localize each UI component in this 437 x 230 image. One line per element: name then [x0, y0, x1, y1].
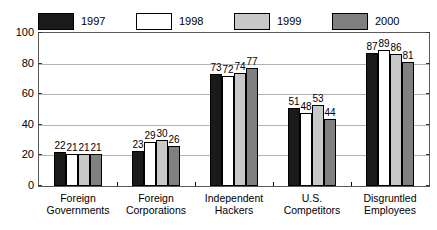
category-label-line: Governments	[39, 204, 117, 216]
category-label-line: Employees	[351, 204, 429, 216]
bar-value-label: 21	[78, 143, 89, 153]
legend-swatch-1999	[234, 13, 270, 30]
group-divider-1	[117, 182, 118, 186]
bar-value-label: 74	[234, 62, 245, 72]
bar-1999-3: 53	[312, 105, 324, 186]
bar-rect	[378, 50, 390, 186]
bar-1997-1: 23	[132, 151, 144, 186]
bar-rect	[246, 68, 258, 186]
bar-value-label: 26	[168, 135, 179, 145]
y-tick-left-20	[38, 154, 42, 155]
bar-rect	[90, 154, 102, 186]
bar-1999-1: 30	[156, 140, 168, 186]
category-label-line: Independent	[195, 192, 273, 204]
bar-1998-3: 48	[300, 113, 312, 186]
bar-value-label: 73	[210, 63, 221, 73]
y-axis-label-100: 100	[0, 27, 34, 38]
legend-swatch-2000	[332, 13, 368, 30]
group-divider-3	[273, 182, 274, 186]
bar-1997-0: 22	[54, 152, 66, 186]
bar-2000-3: 44	[324, 119, 336, 186]
category-label-line: Disgruntled	[351, 192, 429, 204]
category-label-4: DisgruntledEmployees	[351, 192, 429, 216]
bar-value-label: 44	[324, 108, 335, 118]
bar-1998-2: 72	[222, 76, 234, 186]
bar-value-label: 89	[378, 39, 389, 49]
bar-value-label: 77	[246, 57, 257, 67]
y-tick-right-80	[426, 63, 430, 64]
bar-rect	[144, 142, 156, 186]
bar-group-0: 22212121	[39, 33, 117, 186]
bar-rect	[78, 154, 90, 186]
y-tick-right-20	[426, 154, 430, 155]
y-tick-left-60	[38, 93, 42, 94]
bar-rect	[222, 76, 234, 186]
bar-rect	[210, 74, 222, 186]
bar-rect	[300, 113, 312, 186]
bar-2000-4: 81	[402, 62, 414, 186]
group-divider-4	[351, 182, 352, 186]
legend-item-1997: 1997	[38, 13, 136, 30]
bar-1998-0: 21	[66, 154, 78, 186]
bar-value-label: 21	[66, 143, 77, 153]
bar-chart: 1997199819992000 22212121232930267372747…	[0, 0, 437, 230]
category-label-0: ForeignGovernments	[39, 192, 117, 216]
bar-group-2: 73727477	[195, 33, 273, 186]
bar-2000-0: 21	[90, 154, 102, 186]
chart-legend: 1997199819992000	[38, 10, 430, 32]
y-axis-label-0: 0	[0, 180, 34, 191]
bar-rect	[132, 151, 144, 186]
y-tick-right-100	[426, 32, 430, 33]
bar-rect	[54, 152, 66, 186]
bar-2000-1: 26	[168, 146, 180, 186]
bar-rect	[234, 73, 246, 186]
category-label-1: ForeignCorporations	[117, 192, 195, 216]
bar-group-4: 87898681	[351, 33, 429, 186]
y-axis-label-40: 40	[0, 119, 34, 130]
category-label-line: Competitors	[273, 204, 351, 216]
bar-1997-2: 73	[210, 74, 222, 186]
bar-1998-1: 29	[144, 142, 156, 186]
bar-rect	[156, 140, 168, 186]
bar-value-label: 21	[90, 143, 101, 153]
bar-rect	[66, 154, 78, 186]
category-label-3: U.S.Competitors	[273, 192, 351, 216]
y-tick-left-0	[38, 185, 42, 186]
legend-item-2000: 2000	[332, 13, 430, 30]
bar-group-1: 23293026	[117, 33, 195, 186]
bar-1999-2: 74	[234, 73, 246, 186]
bar-value-label: 53	[312, 94, 323, 104]
y-tick-left-100	[38, 32, 42, 33]
bar-value-label: 72	[222, 65, 233, 75]
bar-value-label: 86	[390, 43, 401, 53]
bar-value-label: 81	[402, 51, 413, 61]
y-tick-left-80	[38, 63, 42, 64]
bar-rect	[312, 105, 324, 186]
bar-2000-2: 77	[246, 68, 258, 186]
bar-value-label: 29	[144, 131, 155, 141]
y-tick-left-40	[38, 124, 42, 125]
bar-value-label: 22	[54, 141, 65, 151]
bar-rect	[390, 54, 402, 186]
bar-value-label: 51	[288, 97, 299, 107]
bar-value-label: 30	[156, 129, 167, 139]
bar-rect	[324, 119, 336, 186]
bar-1999-4: 86	[390, 54, 402, 186]
bar-1998-4: 89	[378, 50, 390, 186]
category-label-line: Hackers	[195, 204, 273, 216]
category-label-line: Foreign	[117, 192, 195, 204]
legend-label-1997: 1997	[81, 16, 105, 27]
bar-1997-3: 51	[288, 108, 300, 186]
bar-value-label: 48	[300, 102, 311, 112]
legend-item-1998: 1998	[136, 13, 234, 30]
bar-rect	[366, 53, 378, 186]
legend-label-1998: 1998	[179, 16, 203, 27]
bar-value-label: 23	[132, 140, 143, 150]
group-divider-2	[195, 182, 196, 186]
y-axis-label-60: 60	[0, 88, 34, 99]
bar-rect	[288, 108, 300, 186]
category-label-2: IndependentHackers	[195, 192, 273, 216]
category-label-line: U.S.	[273, 192, 351, 204]
legend-item-1999: 1999	[234, 13, 332, 30]
bar-1999-0: 21	[78, 154, 90, 186]
